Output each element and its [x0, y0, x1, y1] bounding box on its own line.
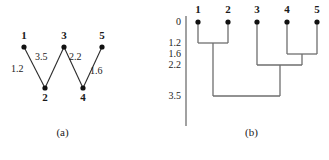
- graph-node-1-dot: [21, 44, 26, 49]
- dendrogram-leaf-5-label: 5: [314, 3, 320, 15]
- graph-node-5-label: 5: [99, 29, 105, 41]
- graph-node-2-label: 2: [42, 91, 48, 103]
- dendrogram-leaf-3-label: 3: [254, 3, 260, 15]
- graph-node-4-dot: [80, 85, 85, 90]
- dendrogram-leaf-2-dot: [225, 19, 230, 24]
- graph-node-3-dot: [61, 44, 66, 49]
- graph-edge-weight-4-5: 1.6: [90, 65, 103, 76]
- graph-edge-weight-1-2: 1.2: [11, 63, 24, 74]
- axis-tick-label-1_6: 1.6: [169, 48, 182, 59]
- dendrogram-leaf-4-dot: [284, 19, 289, 24]
- dendrogram-svg: 0 1.2 1.6 2.2 3.5: [150, 0, 329, 130]
- graph-edge-weight-2-3: 3.5: [35, 51, 48, 62]
- axis-tick-label-2_2: 2.2: [169, 59, 182, 70]
- dendrogram-leaf-1-dot: [195, 19, 200, 24]
- axis-tick-label-3_5: 3.5: [169, 90, 182, 101]
- graph-edge-2-3: [45, 47, 64, 88]
- graph-node-2-dot: [42, 85, 47, 90]
- panel-a-weighted-graph: 1 2 3 4 5 1.2 3.5 2.2 1.6 (a): [0, 0, 165, 160]
- axis-tick-label-0: 0: [176, 16, 181, 27]
- graph-node-5-dot: [99, 44, 104, 49]
- graph-node-3-label: 3: [61, 29, 67, 41]
- dendrogram-leaf-1-label: 1: [195, 3, 201, 15]
- graph-node-4-label: 4: [80, 91, 86, 103]
- panel-b-dendrogram: 0 1.2 1.6 2.2 3.5: [150, 0, 329, 160]
- graph-edge-weight-3-4: 2.2: [69, 51, 82, 62]
- graph-svg: 1 2 3 4 5 1.2 3.5 2.2 1.6: [0, 0, 165, 120]
- figure-root: 1 2 3 4 5 1.2 3.5 2.2 1.6 (a) 0 1.2 1.6 …: [0, 0, 329, 160]
- dendrogram-leaf-4-label: 4: [284, 3, 290, 15]
- dendrogram-leaf-2-label: 2: [225, 3, 231, 15]
- graph-node-1-label: 1: [21, 29, 27, 41]
- axis-tick-label-1_2: 1.2: [169, 37, 182, 48]
- panel-a-caption: (a): [0, 126, 145, 138]
- dendrogram-leaf-5-dot: [314, 19, 319, 24]
- panel-b-caption: (b): [162, 126, 329, 138]
- dendrogram-leaf-3-dot: [254, 19, 259, 24]
